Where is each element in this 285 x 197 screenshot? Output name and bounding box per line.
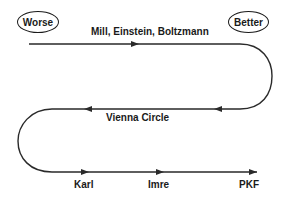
bottom-label-pkf: PKF	[239, 180, 259, 190]
arrow-left-icon	[214, 106, 222, 112]
better-label: Better	[234, 17, 263, 28]
progress-diagram: Worse Better Mill, Einstein, Boltzmann V…	[0, 0, 285, 197]
arrow-right-icon	[131, 41, 139, 47]
arrow-right-icon	[156, 169, 164, 175]
top-path-label: Mill, Einstein, Boltzmann	[91, 27, 209, 37]
better-endpoint: Better	[228, 11, 269, 33]
middle-path-label: Vienna Circle	[106, 113, 169, 123]
worse-label: Worse	[23, 17, 53, 28]
arrow-left-icon	[84, 106, 92, 112]
bottom-label-karl: Karl	[74, 180, 93, 190]
worse-endpoint: Worse	[17, 11, 59, 33]
serpentine-line	[18, 44, 272, 172]
bottom-label-imre: Imre	[148, 180, 169, 190]
arrow-right-icon	[249, 169, 257, 175]
arrow-right-icon	[81, 169, 89, 175]
